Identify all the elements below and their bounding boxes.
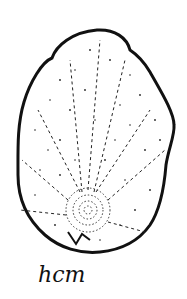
shell-illustration [0, 0, 187, 299]
author-initials: hcm [38, 262, 85, 287]
stipple-dots [34, 49, 161, 241]
notch [68, 232, 90, 244]
shell-outline [18, 30, 174, 252]
apex [66, 188, 110, 232]
